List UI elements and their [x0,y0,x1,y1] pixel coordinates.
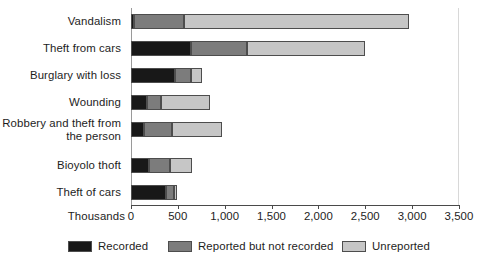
bar-segment-reported-but-not-recorded [191,41,246,56]
bar-row [131,68,459,83]
x-axis-tick-label: 3,500 [434,210,484,222]
x-axis-unit-label: Thousands [68,210,125,222]
bar-segment-recorded [131,122,144,137]
bar-row [131,95,459,110]
x-axis-tick [412,205,413,209]
x-axis-line [131,205,459,206]
category-label: Wounding [69,96,121,109]
bar-row [131,185,459,200]
category-label: Burglary with loss [30,69,121,82]
x-axis-tick [178,205,179,209]
x-axis-tick [365,205,366,209]
bar-segment-unreported [161,95,209,110]
bar-segment-reported-but-not-recorded [147,95,161,110]
legend-swatch [342,241,366,252]
legend-item: Reported but not recorded [168,240,333,252]
legend-label: Reported but not recorded [198,240,333,252]
category-label: Theft of cars [56,186,121,199]
legend-item: Recorded [68,240,148,252]
legend-item: Unreported [342,240,430,252]
bar-segment-recorded [131,185,166,200]
bar-segment-unreported [247,41,366,56]
bar-segment-reported-but-not-recorded [175,68,192,83]
x-axis-tick [318,205,319,209]
legend-label: Unreported [372,240,430,252]
bar-segment-unreported [191,68,202,83]
bar-segment-recorded [131,158,149,173]
stacked-bar-chart: VandalismTheft from carsBurglary with lo… [0,0,487,272]
category-label: Robbery and theft from the person [2,117,121,143]
bar-segment-recorded [131,41,191,56]
bar-segment-unreported [184,14,409,29]
bar-row [131,158,459,173]
bar-segment-recorded [131,68,175,83]
bar-row [131,14,459,29]
x-axis-tick [272,205,273,209]
category-label: Bioyolo thoft [57,159,121,172]
bar-row [131,122,459,137]
bar-row [131,41,459,56]
bar-segment-reported-but-not-recorded [166,185,174,200]
x-axis-tick-label: 2,500 [340,210,390,222]
bar-segment-reported-but-not-recorded [144,122,172,137]
bar-segment-unreported [172,122,221,137]
category-label: Vandalism [68,15,121,28]
bar-segment-recorded [131,95,147,110]
x-axis-tick-label: 1,000 [200,210,250,222]
x-axis-tick [459,205,460,209]
x-axis-tick-label: 1,500 [247,210,297,222]
category-label: Theft from cars [43,42,121,55]
x-axis-tick-label: 500 [153,210,203,222]
bar-segment-reported-but-not-recorded [149,158,170,173]
legend-label: Recorded [98,240,148,252]
x-axis-tick [225,205,226,209]
bar-segment-reported-but-not-recorded [134,14,184,29]
legend-swatch [68,241,92,252]
x-axis-tick [131,205,132,209]
bar-segment-unreported [170,158,192,173]
x-axis-tick-label: 3,000 [387,210,437,222]
chart-legend: RecordedReported but not recordedUnrepor… [0,240,487,260]
category-axis-labels: VandalismTheft from carsBurglary with lo… [0,0,126,205]
bar-segment-unreported [174,185,177,200]
x-axis-tick-label: 2,000 [293,210,343,222]
legend-swatch [168,241,192,252]
